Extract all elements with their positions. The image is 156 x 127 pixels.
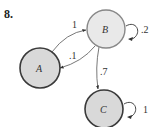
edge-b-to-c: .7	[97, 47, 108, 89]
self-loop-b: .2	[126, 24, 149, 41]
diagram-canvas: 1 .1 .7 .2 1 A	[0, 0, 156, 127]
edge-label-b-to-c: .7	[100, 66, 108, 77]
edge-b-to-a: .1	[60, 46, 95, 68]
node-label-c: C	[100, 104, 107, 115]
node-a: A	[20, 48, 60, 88]
problem-number: 8.	[4, 7, 13, 22]
self-loop-label-b: .2	[141, 24, 149, 35]
node-label-b: B	[102, 24, 108, 35]
markov-chain-diagram: 8. 1 .1 .7 .2	[0, 0, 156, 127]
edge-label-a-to-b: 1	[72, 19, 77, 30]
node-c: C	[85, 90, 123, 127]
node-b: B	[87, 10, 125, 48]
self-loop-label-c: 1	[143, 104, 148, 115]
edge-a-to-b: 1	[52, 19, 86, 52]
self-loop-c: 1	[124, 102, 148, 119]
node-label-a: A	[35, 63, 43, 74]
edge-label-b-to-a: .1	[69, 50, 77, 61]
